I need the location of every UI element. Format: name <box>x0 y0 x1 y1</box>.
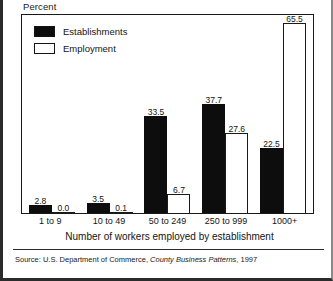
bar-employment: 65.5 <box>283 23 306 213</box>
legend-item-establishments: Establishments <box>34 23 127 40</box>
source-separator-rule <box>13 249 324 250</box>
x-axis-tick-labels: 1 to 9 10 to 49 50 to 249 250 to 999 100… <box>21 216 314 226</box>
bar-establishments: 3.5 <box>87 203 110 213</box>
source-prefix: Source: U.S. Department of Commerce, <box>15 255 148 264</box>
bar-employment: 0.0 <box>52 212 75 213</box>
bar-wrap-employment: 27.6 <box>225 133 248 213</box>
bar-wrap-employment: 0.1 <box>110 212 133 213</box>
legend-label-establishments: Establishments <box>63 26 127 37</box>
x-tick-label: 1 to 9 <box>21 216 80 226</box>
bar-employment: 27.6 <box>225 133 248 213</box>
bar-value-label: 3.5 <box>92 195 104 204</box>
bar-wrap-establishments: 33.5 <box>144 116 167 213</box>
plot-area: Establishments Employment 2.8 0.0 <box>21 14 314 214</box>
bar-wrap-employment: 0.0 <box>52 212 75 213</box>
x-tick-label: 1000+ <box>255 216 314 226</box>
x-tick-label: 10 to 49 <box>80 216 139 226</box>
legend-swatch-filled-square-icon <box>34 26 55 37</box>
bar-value-label: 0.0 <box>57 204 69 213</box>
bar-group-50-to-249: 33.5 6.7 <box>139 16 197 213</box>
bar-establishments: 22.5 <box>260 148 283 213</box>
bar-value-label: 37.7 <box>206 96 223 105</box>
bar-wrap-establishments: 37.7 <box>202 104 225 213</box>
bar-wrap-establishments: 2.8 <box>29 205 52 213</box>
bar-group-1000-plus: 22.5 65.5 <box>254 16 312 213</box>
x-tick-label: 50 to 249 <box>138 216 197 226</box>
bar-wrap-employment: 65.5 <box>283 23 306 213</box>
bar-employment: 6.7 <box>167 194 190 213</box>
bar-value-label: 27.6 <box>229 125 246 134</box>
source-suffix: , 1997 <box>236 255 257 264</box>
bar-establishments: 33.5 <box>144 116 167 213</box>
bar-value-label: 6.7 <box>173 186 185 195</box>
bar-establishments: 37.7 <box>202 104 225 213</box>
bar-wrap-establishments: 3.5 <box>87 203 110 213</box>
bar-value-label: 65.5 <box>286 15 303 24</box>
bar-wrap-establishments: 22.5 <box>260 148 283 213</box>
x-tick-label: 250 to 999 <box>197 216 256 226</box>
bar-value-label: 22.5 <box>263 140 280 149</box>
bar-value-label: 0.1 <box>115 204 127 213</box>
legend-swatch-hollow-square-icon <box>34 43 55 54</box>
legend-item-employment: Employment <box>34 40 127 57</box>
source-note: Source: U.S. Department of Commerce, Cou… <box>15 255 257 264</box>
chart-figure: Percent Establishments Employment 2.8 <box>0 0 333 281</box>
bar-group-250-to-999: 37.7 27.6 <box>196 16 254 213</box>
source-publication-title: County Business Patterns <box>150 255 236 264</box>
y-axis-unit-label: Percent <box>23 1 56 12</box>
legend-label-employment: Employment <box>63 43 116 54</box>
bar-value-label: 2.8 <box>34 197 46 206</box>
x-axis-title: Number of workers employed by establishm… <box>3 231 333 242</box>
bar-establishments: 2.8 <box>29 205 52 213</box>
bar-wrap-employment: 6.7 <box>167 194 190 213</box>
bar-employment: 0.1 <box>110 212 133 213</box>
chart-legend: Establishments Employment <box>34 23 127 57</box>
bar-value-label: 33.5 <box>148 108 165 117</box>
